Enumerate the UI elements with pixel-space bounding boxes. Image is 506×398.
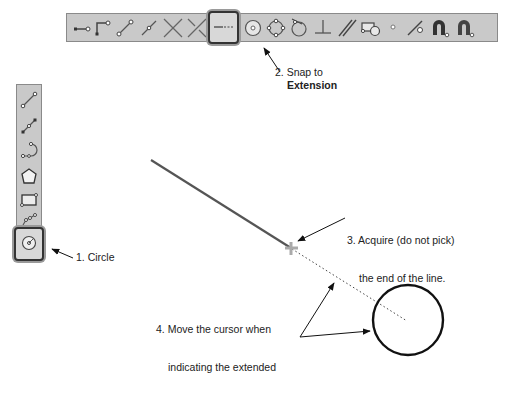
callout-step4: 4. Move the cursor when indicating the e… [156, 298, 301, 398]
callout-step2: 2. Snap to Extension [275, 66, 323, 91]
callout-step3-line1: 3. Acquire (do not pick) [347, 234, 454, 247]
callout-arrow-acquire [298, 218, 345, 241]
callout-arrow-circle [52, 249, 73, 258]
callout-step2-line1: 2. Snap to [275, 66, 323, 78]
callout-arrow-circle-center [300, 331, 370, 337]
acquired-point-marker [285, 242, 298, 255]
callout-arrow-dotted-line [300, 283, 334, 337]
existing-line[interactable] [151, 160, 291, 248]
callout-step4-line: 4. Move the cursor when [156, 323, 301, 336]
callout-step3: 3. Acquire (do not pick) the end of the … [347, 209, 454, 297]
callout-step2-line2: Extension [287, 79, 337, 92]
callout-step3-line2: the end of the line. [347, 272, 454, 285]
callout-step4-line: indicating the extended [156, 361, 301, 374]
callout-step1: 1. Circle [76, 251, 115, 264]
